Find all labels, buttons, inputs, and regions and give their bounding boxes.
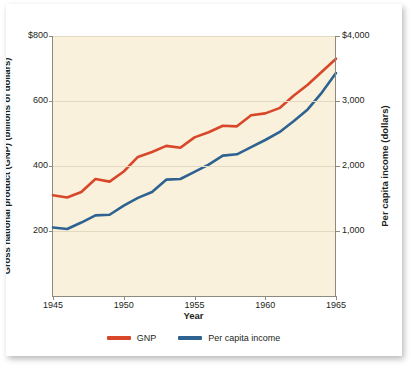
x-axis-title: Year	[52, 310, 335, 321]
legend-item: GNP	[107, 333, 157, 343]
y-axis-title-left: Gross national product (GNP) (billions o…	[6, 36, 14, 296]
plot-area: $800600400200$4,0003,0002,0001,000194519…	[52, 36, 336, 297]
series-line-gnp	[53, 59, 336, 198]
x-tick-label: 1960	[255, 300, 275, 310]
gridline	[53, 231, 336, 232]
y-tick-label-right: 1,000	[342, 225, 365, 235]
y-tick-left	[49, 231, 53, 232]
y-tick-label-left: 400	[8, 160, 48, 170]
y-tick-label-right: 2,000	[342, 160, 365, 170]
y-tick-label-left: 200	[8, 225, 48, 235]
legend-label: GNP	[137, 333, 157, 343]
y-axis-title-right: Per capita income (dollars)	[378, 36, 392, 296]
y-tick-right	[336, 101, 340, 102]
y-tick-label-left: 600	[8, 95, 48, 105]
x-tick-label: 1965	[326, 300, 346, 310]
y-tick-label-left: $800	[8, 30, 48, 40]
gridline	[53, 36, 336, 37]
x-tick-label: 1945	[43, 300, 63, 310]
y-tick-right	[336, 166, 340, 167]
y-tick-left	[49, 101, 53, 102]
x-tick-label: 1950	[114, 300, 134, 310]
legend-swatch-per-capita-income	[178, 336, 202, 340]
x-tick-label: 1955	[184, 300, 204, 310]
y-tick-label-right: 3,000	[342, 95, 365, 105]
legend-item: Per capita income	[178, 333, 280, 343]
chart-figure: $800600400200$4,0003,0002,0001,000194519…	[6, 4, 402, 356]
y-tick-left	[49, 166, 53, 167]
legend-swatch-gnp	[107, 336, 131, 340]
right-axis-spine	[335, 36, 336, 297]
chart-legend: GNP Per capita income	[52, 333, 335, 343]
legend-label: Per capita income	[208, 333, 280, 343]
y-tick-right	[336, 36, 340, 37]
gridline	[53, 166, 336, 167]
gridline	[53, 101, 336, 102]
y-tick-label-right: $4,000	[342, 30, 370, 40]
y-tick-right	[336, 231, 340, 232]
y-tick-left	[49, 36, 53, 37]
